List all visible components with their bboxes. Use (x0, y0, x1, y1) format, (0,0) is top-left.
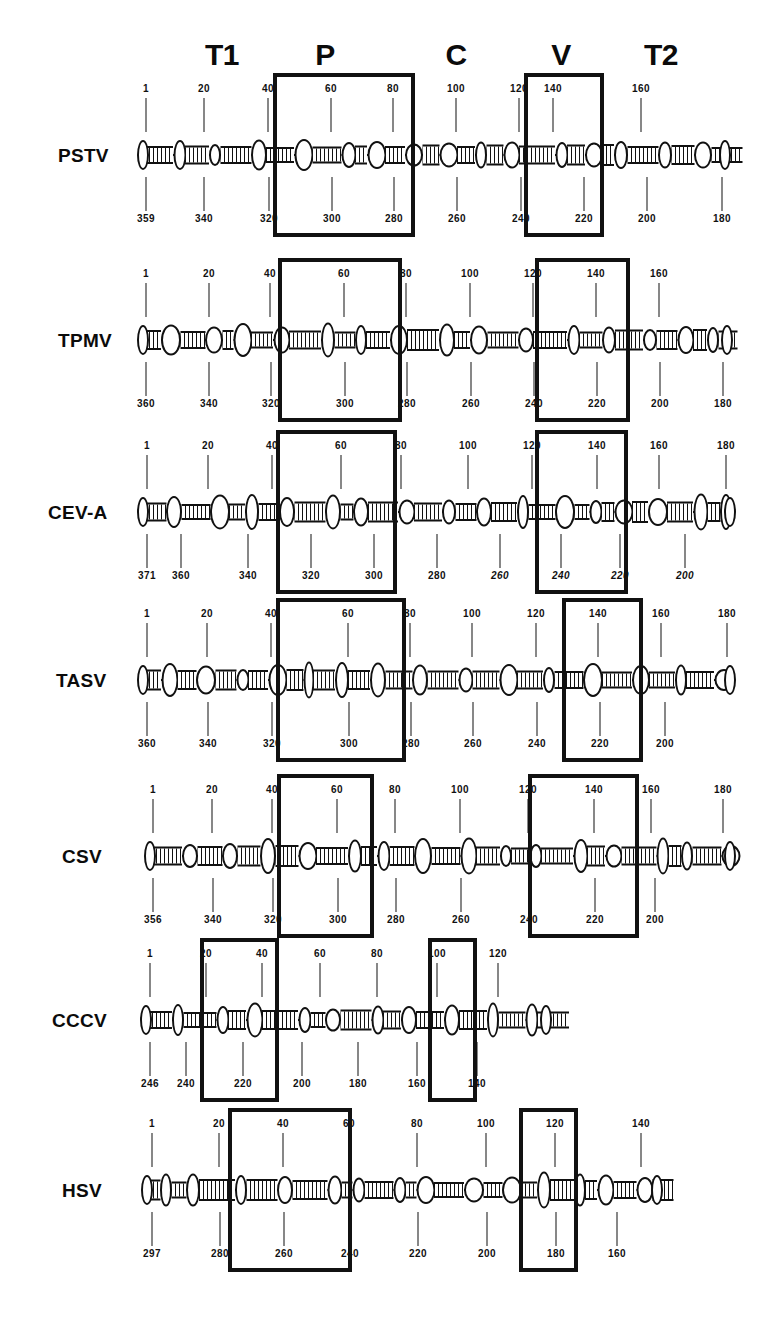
tick-mark-bottom (600, 702, 601, 736)
position-number-top: 1 (149, 1118, 155, 1129)
helix-segment (348, 670, 370, 690)
tick-mark-top (470, 283, 471, 317)
internal-loop (348, 840, 362, 873)
terminal-loop (724, 497, 736, 527)
internal-loop (614, 141, 628, 169)
tick-mark-bottom (685, 534, 686, 568)
internal-loop (260, 838, 276, 874)
internal-loop (390, 325, 408, 355)
position-number-bottom: 360 (138, 738, 156, 749)
tick-mark-top (410, 623, 411, 657)
helix-segment (289, 331, 321, 350)
position-number-bottom: 340 (199, 738, 217, 749)
tick-mark-bottom (561, 534, 562, 568)
helix-segment (258, 503, 279, 521)
helix-segment (533, 331, 567, 349)
helix-segment (649, 672, 675, 689)
tick-mark-top (661, 623, 662, 657)
internal-loop (246, 1003, 263, 1038)
position-number-top: 120 (519, 784, 537, 795)
internal-loop (693, 494, 708, 531)
position-number-bottom: 360 (172, 570, 190, 581)
helix-segment (574, 504, 589, 520)
helix-segment (145, 146, 173, 164)
tick-mark-bottom (529, 878, 530, 912)
position-number-top: 60 (343, 1118, 355, 1129)
position-number-top: 60 (331, 784, 343, 795)
tick-mark-top (219, 1133, 220, 1167)
position-number-bottom: 340 (204, 914, 222, 925)
tick-mark-top (341, 455, 342, 489)
helix-segment (550, 1179, 574, 1201)
helix-segment (671, 145, 694, 165)
position-number-top: 100 (477, 1118, 495, 1129)
helix-segment (152, 847, 182, 866)
position-number-top: 1 (144, 608, 150, 619)
terminal-loop (137, 665, 149, 695)
internal-loop (325, 495, 341, 530)
tick-mark-bottom (457, 177, 458, 211)
tick-mark-top (498, 963, 499, 997)
tick-mark-top (553, 98, 554, 132)
rna-rod (150, 833, 730, 879)
internal-loop (502, 1177, 522, 1204)
position-number-bottom: 260 (452, 914, 470, 925)
helix-segment (228, 1010, 246, 1030)
tick-mark-top (377, 963, 378, 997)
internal-loop (210, 495, 230, 530)
tick-mark-bottom (660, 362, 661, 396)
tick-mark-top (204, 98, 205, 132)
position-number-top: 160 (642, 784, 660, 795)
tick-mark-top (262, 963, 263, 997)
position-number-bottom: 340 (239, 570, 257, 581)
tick-mark-bottom (273, 878, 274, 912)
tick-mark-top (641, 98, 642, 132)
position-number-top: 100 (463, 608, 481, 619)
position-number-top: 80 (371, 948, 383, 959)
position-number-top: 120 (524, 268, 542, 279)
helix-segment (316, 847, 348, 865)
position-number-top: 1 (147, 948, 153, 959)
tick-mark-bottom (271, 362, 272, 396)
terminal-loop (137, 325, 149, 355)
rna-rod (143, 489, 730, 535)
internal-loop (597, 1175, 614, 1206)
tick-mark-top (146, 283, 147, 317)
helix-segment (389, 846, 414, 866)
helix-segment (310, 1012, 325, 1028)
tick-mark-bottom (338, 878, 339, 912)
domain-header-p: P (315, 40, 335, 70)
tick-mark-bottom (461, 878, 462, 912)
helix-segment (422, 145, 439, 166)
terminal-loop (721, 325, 733, 355)
tick-mark-top (641, 1133, 642, 1167)
position-number-bottom: 297 (143, 1248, 161, 1259)
helix-segment (498, 1012, 525, 1029)
tick-mark-bottom (147, 702, 148, 736)
helix-segment (220, 146, 251, 164)
position-number-top: 160 (632, 83, 650, 94)
tick-mark-top (723, 799, 724, 833)
internal-loop (499, 664, 518, 696)
position-number-top: 80 (404, 608, 416, 619)
internal-loop (414, 838, 432, 874)
internal-loop (518, 328, 534, 353)
tick-mark-bottom (311, 534, 312, 568)
viroid-name-label: HSV (62, 1181, 102, 1200)
position-number-bottom: 300 (323, 213, 341, 224)
position-number-top: 100 (461, 268, 479, 279)
position-number-bottom: 260 (462, 398, 480, 409)
helix-segment (340, 504, 353, 521)
internal-loop (186, 1174, 200, 1207)
helix-segment (312, 147, 341, 164)
internal-loop (161, 663, 178, 697)
rna-rod (143, 657, 730, 703)
position-number-bottom: 160 (608, 1248, 626, 1259)
position-number-bottom: 300 (365, 570, 383, 581)
tick-mark-bottom (418, 1212, 419, 1246)
internal-loop (325, 1009, 341, 1032)
tick-mark-top (209, 283, 210, 317)
internal-loop (321, 323, 335, 358)
internal-loop (444, 1005, 460, 1036)
position-number-top: 120 (527, 608, 545, 619)
